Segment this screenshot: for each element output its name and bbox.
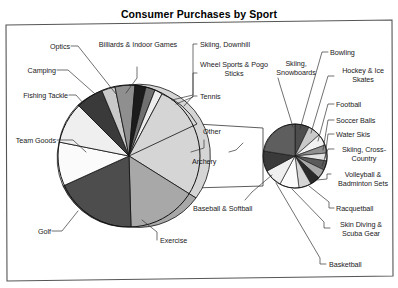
label-skiing-downhill: Skiing, Downhill [200,40,272,49]
label-volleyball-badminton-sets: Volleyball & Badminton Sets [332,170,394,189]
leader-skiing-snowboards [278,78,293,127]
label-soccer-balls: Soccer Balls [336,116,396,125]
secondary-pie [263,124,327,188]
label-optics: Optics [6,42,70,51]
label-other: Other [203,127,239,136]
leader-football [318,104,334,141]
label-wheel-sports-pogo-sticks: Wheel Sports & Pogo Sticks [198,60,270,79]
label-billiards-indoor-games: Billiards & Indoor Games [98,40,178,49]
leader-golf [52,211,78,231]
label-football: Football [336,100,392,109]
label-fishing-tackle: Fishing Tackle [2,91,68,100]
label-water-skis: Water Skis [336,130,394,139]
label-exercise: Exercise [160,236,208,245]
leader-basketball [276,183,326,264]
label-golf: Golf [20,227,51,236]
main-pie [57,84,210,227]
label-skin-diving-scuba-gear: Skin Diving & Scuba Gear [330,220,392,239]
label-bowling: Bowling [330,48,390,57]
chart-container: Consumer Purchases by Sport [0,0,398,288]
leader-optics [71,46,116,94]
label-skiing-snowboards: Skiing, Snowboards [270,59,322,78]
label-skiing-cross-country: Skiing, Cross-Country [334,145,394,164]
label-camping: Camping [4,66,56,75]
leader-skin-diving-scuba [292,189,330,228]
label-basketball: Basketball [329,260,385,269]
sub-slice-archery[interactable] [264,124,295,156]
label-hockey-ice-skates: Hockey & Ice Skates [334,66,392,85]
leader-racquetball [309,186,334,208]
label-archery: Archery [192,157,236,166]
label-team-goods: Team Goods [0,136,56,145]
label-racquetball: Racquetball [336,204,394,213]
label-baseball-softball: Baseball & Softball [193,204,277,213]
label-tennis: Tennis [200,92,240,101]
